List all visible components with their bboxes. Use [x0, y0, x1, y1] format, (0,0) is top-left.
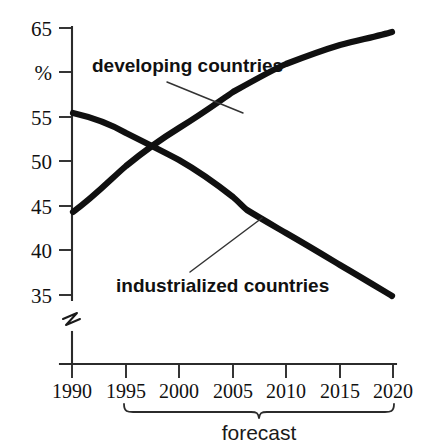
chart-figure: 65 % 55 50 45 40 35 1990 1995 2000 2005 … — [0, 0, 439, 445]
y-axis-group: 65 % 55 50 45 40 35 — [31, 17, 80, 364]
axis-break-icon — [63, 313, 80, 325]
x-axis-group: 1990 1995 2000 2005 2010 2015 2020 — [52, 346, 413, 402]
x-tick-label-2015: 2015 — [320, 380, 360, 402]
series-label-developing-countries: developing countries — [92, 55, 283, 76]
leader-line-industrialized-countries — [190, 218, 262, 272]
y-tick-label-35: 35 — [31, 284, 52, 308]
x-tick-label-2000: 2000 — [159, 380, 199, 402]
y-tick-label-45: 45 — [31, 195, 52, 219]
forecast-label: forecast — [222, 421, 297, 444]
x-tick-label-2005: 2005 — [213, 380, 253, 402]
x-tick-label-2010: 2010 — [266, 380, 306, 402]
forecast-brace — [124, 404, 394, 418]
forecast-brace-group: forecast — [124, 404, 394, 444]
annotation-developing-countries: developing countries — [92, 55, 283, 113]
series-label-industrialized-countries: industrialized countries — [116, 275, 329, 296]
x-tick-label-2020: 2020 — [373, 380, 413, 402]
y-tick-label-65: 65 — [31, 17, 52, 41]
x-tick-label-1990: 1990 — [52, 380, 92, 402]
line-chart-canvas: 65 % 55 50 45 40 35 1990 1995 2000 2005 … — [0, 0, 439, 445]
y-axis-unit-label: % — [35, 61, 53, 85]
annotation-industrialized-countries: industrialized countries — [116, 218, 329, 296]
y-tick-label-50: 50 — [31, 150, 52, 174]
y-tick-label-55: 55 — [31, 106, 52, 130]
y-tick-label-40: 40 — [31, 239, 52, 263]
x-tick-label-1995: 1995 — [106, 380, 146, 402]
series-line-industrialized-countries — [73, 113, 392, 296]
